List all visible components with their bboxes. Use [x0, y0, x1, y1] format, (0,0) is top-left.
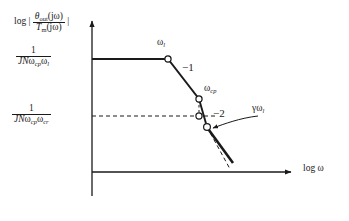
gamma-omega-l-label: γωl: [252, 104, 264, 114]
x-axis-label: log ω: [303, 164, 324, 174]
asymptotic-magnitude-final-segment: [206, 126, 233, 163]
marker-omega-cp: [196, 96, 202, 102]
slope-label-minus-1: −1: [182, 62, 194, 73]
slope-label-minus-2: −2: [213, 108, 225, 119]
y-caption-log: log: [14, 16, 26, 26]
y-axis-caption: log | θout(jω) Tm(jω) |: [14, 12, 69, 32]
y-caption-bar-open: |: [29, 16, 31, 26]
bode-plot-figure: log | θout(jω) Tm(jω) | 1 JNωcpωl 1 JNωc…: [0, 0, 349, 221]
y-tick-1-denominator: JNωcpωl: [16, 57, 51, 67]
plot-canvas: [0, 0, 349, 221]
y-caption-fraction: θout(jω) Tm(jω): [33, 12, 65, 32]
breakpoint-2-label: ωcp: [204, 84, 216, 94]
breakpoint-1-label: ωl: [157, 38, 165, 48]
y-tick-2-fraction: 1 JNωcpωcr: [12, 104, 51, 124]
y-caption-denominator: Tm(jω): [33, 23, 65, 33]
y-tick-2-denominator: JNωcpωcr: [12, 115, 51, 125]
y-tick-label-2: 1 JNωcpωcr: [12, 104, 51, 124]
marker-level-cross: [196, 113, 202, 119]
marker-omega-l: [165, 56, 171, 62]
marker-gamma-omega-l: [204, 124, 211, 131]
y-tick-1-fraction: 1 JNωcpωl: [16, 46, 51, 66]
y-tick-label-1: 1 JNωcpωl: [16, 46, 51, 66]
y-caption-bar-close: |: [67, 16, 69, 26]
